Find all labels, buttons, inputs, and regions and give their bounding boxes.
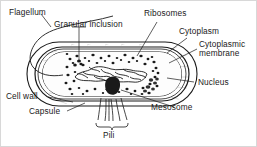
diagram-canvas	[1, 1, 257, 147]
label-granular-inclusion: Granular inclusion	[54, 20, 123, 29]
label-flagellum: Flagellum	[9, 8, 46, 17]
leader-cytoplasmic-membrane	[169, 49, 197, 63]
pili-brace	[96, 123, 128, 130]
label-nucleus: Nucleus	[198, 78, 229, 87]
mesosome-blob	[105, 76, 120, 94]
label-cytoplasm: Cytoplasm	[179, 27, 219, 36]
leader-capsule	[67, 103, 85, 111]
leader-ribosomes	[137, 22, 157, 56]
label-mesosome: Mesosome	[151, 103, 192, 112]
label-ribosomes: Ribosomes	[144, 9, 186, 18]
label-capsule: Capsule	[29, 107, 60, 116]
label-cell-wall: Cell wall	[6, 92, 38, 101]
label-pili: Pili	[103, 131, 114, 140]
bacterial-cell-diagram: Flagellum Granular inclusion Ribosomes C…	[0, 0, 257, 147]
label-cytoplasmic-membrane: Cytoplasmic membrane	[199, 40, 256, 59]
